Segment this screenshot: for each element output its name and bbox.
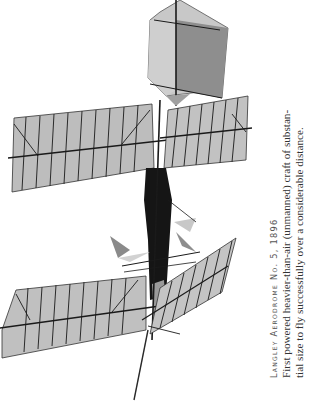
caption-title: Langley Aerodrome No. 5, 1896: [268, 33, 280, 378]
caption-line: tial size to fly successfully over a con…: [293, 33, 306, 378]
tail-assembly: [148, 0, 228, 106]
figure-caption: Langley Aerodrome No. 5, 1896 First powe…: [268, 33, 305, 378]
caption-description: First powered heavier-than-air (unmanned…: [280, 33, 305, 378]
front-left-wing: [0, 276, 160, 358]
aerodrome-photograph: [0, 0, 262, 406]
rear-left-wing: [8, 104, 168, 192]
caption-line: First powered heavier-than-air (unmanned…: [280, 33, 293, 378]
rear-right-wing: [160, 96, 252, 168]
